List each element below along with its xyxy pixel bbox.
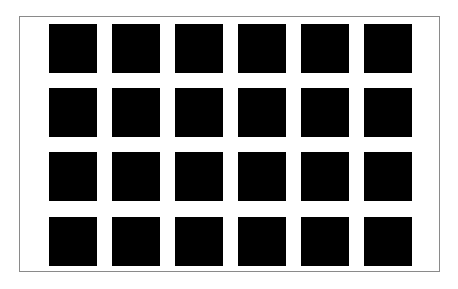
grid-square-r2-c6 — [364, 88, 412, 137]
grid-square-r4-c1 — [49, 217, 97, 266]
grid-square-r2-c5 — [301, 88, 349, 137]
grid-square-r3-c2 — [112, 152, 160, 201]
grid-square-r2-c2 — [112, 88, 160, 137]
grid-square-r1-c4 — [238, 24, 286, 73]
grid-square-r3-c5 — [301, 152, 349, 201]
grid-square-r4-c5 — [301, 217, 349, 266]
grid-square-r3-c3 — [175, 152, 223, 201]
grid-square-r3-c4 — [238, 152, 286, 201]
grid-square-r1-c5 — [301, 24, 349, 73]
grid-square-r2-c1 — [49, 88, 97, 137]
grid-square-r1-c6 — [364, 24, 412, 73]
grid-square-r3-c6 — [364, 152, 412, 201]
grid-square-r1-c2 — [112, 24, 160, 73]
grid-square-r3-c1 — [49, 152, 97, 201]
grid-square-r4-c4 — [238, 217, 286, 266]
grid-square-r1-c3 — [175, 24, 223, 73]
grid-square-r2-c4 — [238, 88, 286, 137]
grid-square-r4-c3 — [175, 217, 223, 266]
grid-square-r4-c6 — [364, 217, 412, 266]
grid-square-r2-c3 — [175, 88, 223, 137]
grid-square-r4-c2 — [112, 217, 160, 266]
grid-square-r1-c1 — [49, 24, 97, 73]
grid-frame — [19, 16, 440, 272]
